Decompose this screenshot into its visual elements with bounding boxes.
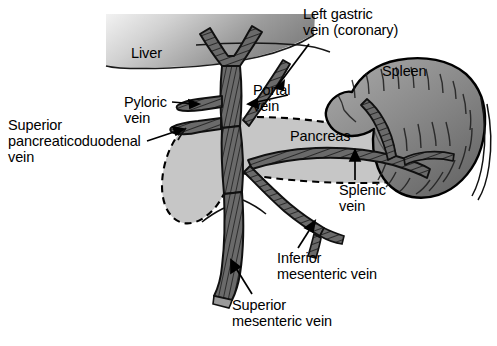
organ-label-liver: Liver [131, 45, 162, 61]
vessel-label-superior-pancreaticoduodenal-vein-line2: pancreaticoduodenal [8, 133, 141, 149]
vessel-label-inferior-mesenteric-vein-line2: mesenteric vein [277, 266, 377, 282]
anatomy-illustration [0, 0, 497, 346]
vessel-label-pyloric-vein-line2: vein [124, 110, 150, 126]
vessel-label-left-gastric-vein-line2: vein (coronary) [303, 22, 398, 38]
portal-venous-system-figure: Liver Spleen Pancreas Left gastric vein … [0, 0, 497, 346]
vessel-label-portal-vein-line1: Portal [253, 82, 290, 98]
organ-label-pancreas: Pancreas [290, 128, 350, 144]
vessel-label-splenic-vein-line1: Splenic [339, 182, 386, 198]
vessel-label-superior-mesenteric-vein-line2: mesenteric vein [232, 313, 332, 329]
vessel-label-superior-pancreaticoduodenal-vein-line3: vein [8, 149, 34, 165]
vessel-label-inferior-mesenteric-vein-line1: Inferior [277, 250, 321, 266]
cut-off-caption [0, 336, 497, 346]
vessel-label-splenic-vein-line2: vein [339, 198, 365, 214]
vessel-label-superior-pancreaticoduodenal-vein-line1: Superior [8, 117, 62, 133]
vessel-label-portal-vein-line2: vein [253, 98, 279, 114]
vessel-label-pyloric-vein-line1: Pyloric [124, 94, 167, 110]
vessel-label-left-gastric-vein-line1: Left gastric [303, 6, 373, 22]
vessel-label-superior-mesenteric-vein-line1: Superior [232, 297, 286, 313]
organ-label-spleen: Spleen [382, 63, 427, 79]
